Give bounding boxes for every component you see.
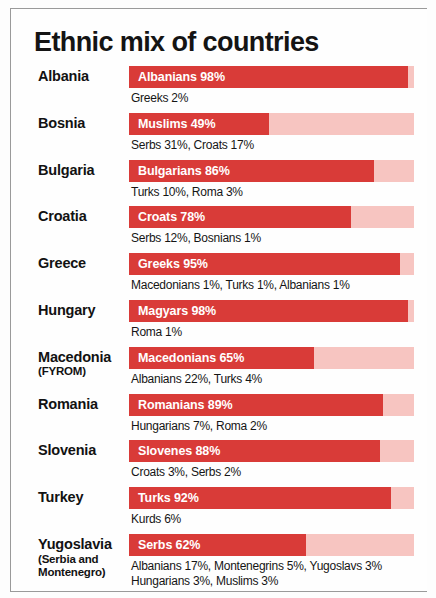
minority-groups-text: Serbs 31%, Croats 17%: [131, 138, 254, 153]
minority-groups-text: Albanians 17%, Montenegrins 5%, Yugoslav…: [131, 559, 382, 574]
country-name: Slovenia: [38, 442, 96, 458]
country-name: Croatia: [38, 208, 87, 224]
minority-groups-text: Greeks 2%: [131, 91, 188, 106]
bar-track: Bulgarians 86%: [129, 160, 414, 182]
country-label: Bulgaria: [38, 163, 134, 179]
bar-track: Serbs 62%: [129, 534, 414, 556]
country-row: Yugoslavia(Serbia andMontenegro)Serbs 62…: [11, 534, 427, 581]
bar-track: Romanians 89%: [129, 394, 414, 416]
country-row: CroatiaCroats 78%Serbs 12%, Bosnians 1%: [11, 206, 427, 253]
bar-track: Muslims 49%: [129, 113, 414, 135]
bar-label: Albanians 98%: [138, 66, 225, 88]
bar-track: Slovenes 88%: [129, 440, 414, 462]
country-name: Greece: [38, 255, 86, 271]
bar-label: Slovenes 88%: [138, 440, 220, 462]
country-row: TurkeyTurks 92%Kurds 6%: [11, 487, 427, 534]
country-subtitle: Montenegro): [38, 566, 134, 580]
country-row: Macedonia(FYROM)Macedonians 65%Albanians…: [11, 347, 427, 394]
country-row: AlbaniaAlbanians 98%Greeks 2%: [11, 66, 427, 113]
bar-track: Macedonians 65%: [129, 347, 414, 369]
country-name: Albania: [38, 68, 89, 84]
country-row: SloveniaSlovenes 88%Croats 3%, Serbs 2%: [11, 440, 427, 487]
minority-groups-text: Hungarians 3%, Muslims 3%: [131, 574, 278, 589]
country-row: GreeceGreeks 95%Macedonians 1%, Turks 1%…: [11, 253, 427, 300]
country-row: HungaryMagyars 98%Roma 1%: [11, 300, 427, 347]
country-subtitle: (Serbia and: [38, 553, 134, 567]
country-label: Romania: [38, 397, 134, 413]
bar-label: Macedonians 65%: [138, 347, 244, 369]
country-label: Croatia: [38, 209, 134, 225]
country-row: BosniaMuslims 49%Serbs 31%, Croats 17%: [11, 113, 427, 160]
bar-track: Turks 92%: [129, 487, 414, 509]
minority-groups-text: Turks 10%, Roma 3%: [131, 185, 243, 200]
country-label: Hungary: [38, 303, 134, 319]
chart-frame: Ethnic mix of countries AlbaniaAlbanians…: [10, 8, 427, 592]
country-label: Macedonia(FYROM): [38, 350, 134, 379]
bar-label: Bulgarians 86%: [138, 160, 230, 182]
bar-label: Turks 92%: [138, 487, 199, 509]
bar-label: Romanians 89%: [138, 394, 233, 416]
country-label: Slovenia: [38, 443, 134, 459]
bar-track: Albanians 98%: [129, 66, 414, 88]
country-label: Bosnia: [38, 116, 134, 132]
minority-groups-text: Croats 3%, Serbs 2%: [131, 465, 241, 480]
minority-groups-text: Hungarians 7%, Roma 2%: [131, 419, 267, 434]
bar-label: Greeks 95%: [138, 253, 208, 275]
chart-inner: Ethnic mix of countries AlbaniaAlbanians…: [11, 9, 427, 591]
country-label: Albania: [38, 69, 134, 85]
minority-groups-text: Serbs 12%, Bosnians 1%: [131, 231, 261, 246]
country-name: Turkey: [38, 489, 83, 505]
ethnic-mix-infographic: Ethnic mix of countries AlbaniaAlbanians…: [0, 0, 436, 598]
bar-track: Magyars 98%: [129, 300, 414, 322]
minority-groups-text: Macedonians 1%, Turks 1%, Albanians 1%: [131, 278, 350, 293]
bar-track: Greeks 95%: [129, 253, 414, 275]
country-name: Macedonia: [38, 349, 111, 365]
page-title: Ethnic mix of countries: [34, 27, 319, 58]
country-name: Bulgaria: [38, 162, 94, 178]
country-row: BulgariaBulgarians 86%Turks 10%, Roma 3%: [11, 160, 427, 207]
country-name: Bosnia: [38, 115, 85, 131]
country-label: Yugoslavia(Serbia andMontenegro): [38, 537, 134, 580]
country-name: Romania: [38, 396, 98, 412]
country-label: Greece: [38, 256, 134, 272]
country-row: RomaniaRomanians 89%Hungarians 7%, Roma …: [11, 394, 427, 441]
bar-track: Croats 78%: [129, 206, 414, 228]
bar-label: Muslims 49%: [138, 113, 215, 135]
bar-label: Serbs 62%: [138, 534, 200, 556]
minority-groups-text: Kurds 6%: [131, 512, 181, 527]
bar-label: Magyars 98%: [138, 300, 216, 322]
minority-groups-text: Roma 1%: [131, 325, 182, 340]
minority-groups-text: Albanians 22%, Turks 4%: [131, 372, 262, 387]
country-name: Hungary: [38, 302, 95, 318]
country-name: Yugoslavia: [38, 536, 112, 552]
bar-label: Croats 78%: [138, 206, 205, 228]
country-subtitle: (FYROM): [38, 365, 134, 379]
country-label: Turkey: [38, 490, 134, 506]
